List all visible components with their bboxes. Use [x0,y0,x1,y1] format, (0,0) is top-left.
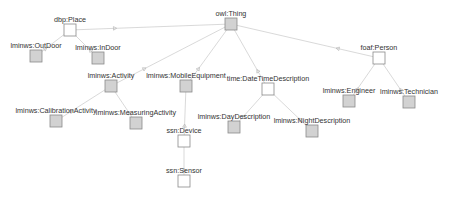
node-lminws-calibrationactivity[interactable]: lminws:CalibrationActivity [15,106,96,128]
node-box[interactable] [306,125,318,137]
node-box[interactable] [105,80,117,92]
edge-line [70,24,231,30]
node-label: ssn:Device [166,126,201,135]
node-box[interactable] [262,83,274,95]
node-label: lminws:NightDescription [274,116,351,125]
node-label: time:DateTimeDescription [227,74,309,83]
node-label: foaf:Person [361,43,398,52]
node-label: dbp:Place [54,15,86,24]
subclass-edge [268,89,312,131]
node-lminws-daydescription[interactable]: lminws:DayDescription [198,112,271,134]
node-dbp-place[interactable]: dbp:Place [54,15,86,37]
node-ssn-device[interactable]: ssn:Device [166,126,201,148]
node-ssn-sensor[interactable]: ssn:Sensor [166,166,203,188]
node-lminws-nightdescription[interactable]: lminws:NightDescription [274,116,351,138]
subclass-edge [349,58,379,101]
node-label: lminws:DayDescription [198,112,271,121]
node-lminws-engineer[interactable]: lminws:Engineer [323,86,376,108]
edge-line [268,89,312,131]
node-box[interactable] [30,50,42,62]
node-lminws-mobileequipment[interactable]: lminws:MobileEquipment [146,71,226,93]
node-box[interactable] [92,52,104,64]
edge-line [231,24,379,58]
node-label: owl:Thing [216,9,247,18]
node-lminws-indoor[interactable]: lminws:InDoor [75,43,121,65]
node-lminws-outdoor[interactable]: lminws:OutDoor [10,41,62,63]
node-label: lminws:MeasuringActivity [96,108,177,117]
node-lminws-measuringactivity[interactable]: lminws:MeasuringActivity [96,108,177,130]
edge-line [349,58,379,101]
node-box[interactable] [343,95,355,107]
node-label: lminws:MobileEquipment [146,71,226,80]
node-box[interactable] [225,18,237,30]
subclass-edge [231,24,379,58]
node-lminws-activity[interactable]: lminws:Activity [88,71,135,93]
node-box[interactable] [228,121,240,133]
node-label: lminws:Engineer [323,86,376,95]
node-lminws-technician[interactable]: lminws:Technician [380,87,438,109]
node-box[interactable] [178,135,190,147]
node-box[interactable] [403,96,415,108]
node-label: lminws:CalibrationActivity [15,106,96,115]
node-box[interactable] [64,24,76,36]
ontology-graph: owl:Thingdbp:Placelminws:OutDoorlminws:I… [0,0,466,197]
node-box[interactable] [178,175,190,187]
node-layer: owl:Thingdbp:Placelminws:OutDoorlminws:I… [10,9,438,188]
node-box[interactable] [180,80,192,92]
node-label: lminws:OutDoor [10,41,62,50]
node-time-datetimedescription[interactable]: time:DateTimeDescription [227,74,309,96]
node-label: lminws:Technician [380,87,438,96]
node-box[interactable] [373,52,385,64]
subclass-edge [70,24,231,30]
node-label: lminws:Activity [88,71,135,80]
node-label: ssn:Sensor [166,166,203,175]
node-box[interactable] [130,117,142,129]
node-box[interactable] [50,115,62,127]
node-label: lminws:InDoor [75,43,121,52]
node-foaf-person[interactable]: foaf:Person [361,43,398,65]
